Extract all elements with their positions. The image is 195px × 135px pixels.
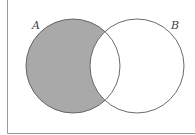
circle-b xyxy=(90,19,184,113)
set-label-b: B xyxy=(170,19,179,32)
shaded-region-a-minus-b xyxy=(26,19,120,113)
set-label-a: A xyxy=(31,19,40,32)
venn-diagram: A B xyxy=(0,0,195,135)
